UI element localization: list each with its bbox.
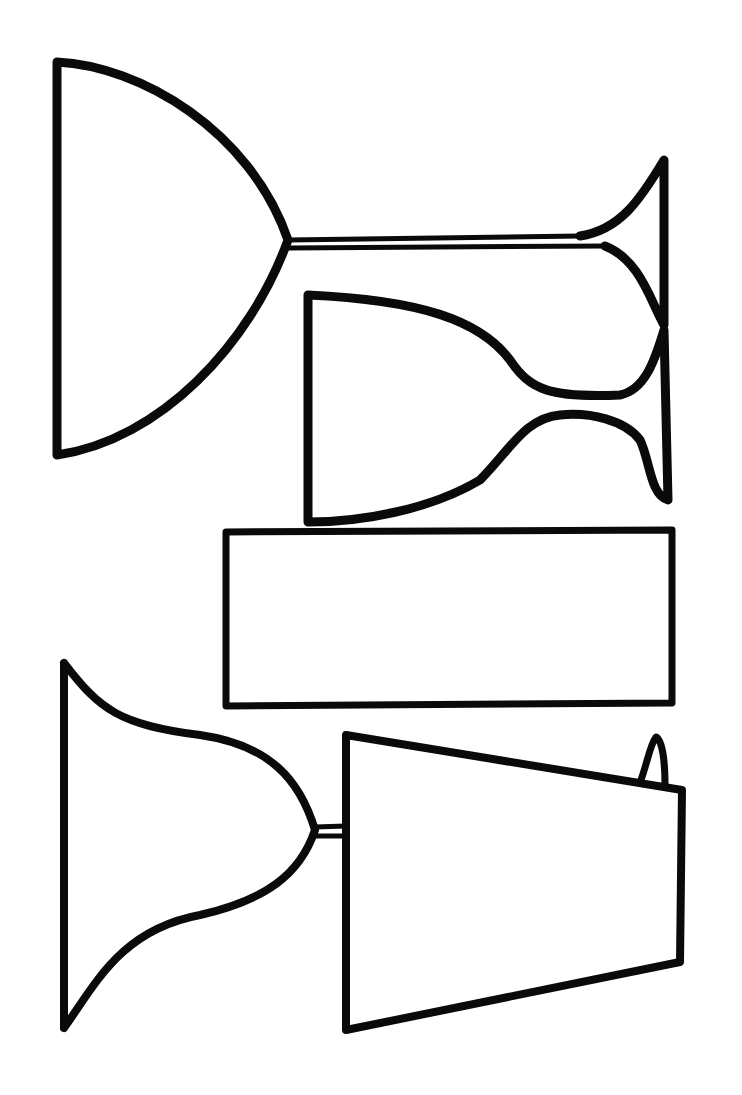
background	[0, 0, 742, 1095]
glassware-sketch	[0, 0, 742, 1095]
